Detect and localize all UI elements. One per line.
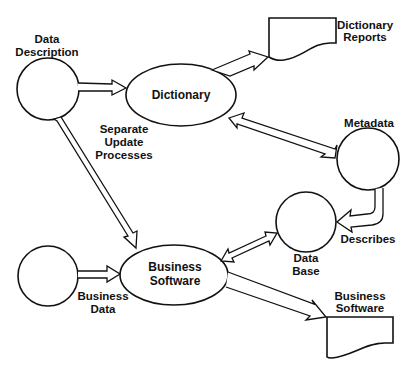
arrow-data-description-to-dictionary (78, 80, 126, 95)
business-data-label-line2: Data (91, 303, 117, 315)
business-software-label-line1: Business (148, 260, 202, 274)
business-software-document-label-line1: Business (334, 290, 385, 302)
data-base-node (276, 192, 336, 252)
business-software-document (327, 317, 393, 358)
arrow-dictionary-to-dictionary-reports (212, 51, 268, 76)
dictionary-reports-document (269, 18, 336, 60)
arrow-dictionary-metadata-bidirectional (229, 113, 337, 158)
metadata-label: Metadata (344, 117, 394, 129)
dictionary-reports-label-line1: Dictionary (337, 19, 394, 31)
separate-update-processes-line2: Update (105, 136, 144, 148)
separate-update-processes-line1: Separate (100, 123, 149, 135)
metadata-node (337, 128, 399, 190)
data-base-label-line2: Base (292, 265, 320, 277)
business-data-label-line1: Business (77, 290, 128, 302)
arrow-business-data-to-business-software (78, 266, 120, 282)
data-description-label-line1: Data (35, 33, 61, 45)
data-flow-diagram: Data Description Dictionary Dictionary R… (0, 0, 412, 371)
dictionary-reports-label-line2: Reports (343, 31, 386, 43)
arrow-metadata-to-data-base (337, 188, 383, 232)
arrow-business-software-data-base-bidirectional (221, 232, 277, 262)
business-software-label-line2: Software (150, 274, 201, 288)
business-software-document-label-line2: Software (336, 302, 385, 314)
business-data-node (18, 246, 78, 306)
separate-update-processes-line3: Processes (95, 149, 153, 161)
data-description-label-line2: Description (15, 46, 78, 58)
data-description-node (17, 58, 79, 120)
dictionary-label: Dictionary (152, 88, 211, 102)
arrow-business-software-to-document (226, 272, 326, 320)
data-base-label-line1: Data (294, 252, 320, 264)
describes-label: Describes (341, 233, 396, 245)
